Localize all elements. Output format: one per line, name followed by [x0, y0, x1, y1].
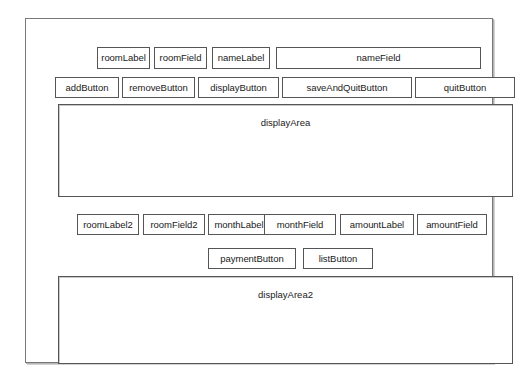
save-and-quit-button[interactable]: saveAndQuitButton — [282, 77, 412, 98]
display-area-caption: displayArea — [59, 118, 512, 128]
display-area[interactable]: displayArea — [58, 104, 513, 197]
month-label: monthLabel — [208, 214, 270, 235]
name-label: nameLabel — [212, 47, 270, 69]
room-label-2: roomLabel2 — [77, 214, 139, 235]
quit-button[interactable]: quitButton — [415, 77, 515, 98]
application-window: roomLabel roomField nameLabel nameField … — [25, 18, 493, 363]
room-field-input[interactable]: roomField — [154, 47, 207, 69]
display-button[interactable]: displayButton — [198, 77, 279, 98]
name-field-input[interactable]: nameField — [276, 47, 481, 69]
amount-label: amountLabel — [340, 214, 414, 235]
room-field-2-input[interactable]: roomField2 — [143, 214, 205, 235]
payment-button[interactable]: paymentButton — [208, 248, 296, 269]
room-label: roomLabel — [97, 47, 150, 69]
list-button[interactable]: listButton — [303, 248, 373, 269]
remove-button[interactable]: removeButton — [122, 77, 195, 98]
display-area-2[interactable]: displayArea2 — [58, 276, 513, 364]
add-button[interactable]: addButton — [55, 77, 119, 98]
screenshot-canvas: roomLabel roomField nameLabel nameField … — [0, 0, 520, 379]
month-field-input[interactable]: monthField — [264, 214, 336, 235]
amount-field-input[interactable]: amountField — [417, 214, 487, 235]
display-area-2-caption: displayArea2 — [59, 290, 512, 300]
